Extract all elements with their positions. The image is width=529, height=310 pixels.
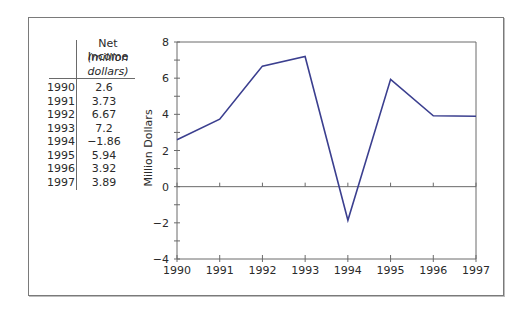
- net-income-line: [177, 57, 476, 221]
- chart-axes: 86420−2−41990199119921993199419951996199…: [153, 36, 490, 277]
- x-tick-label: 1990: [163, 264, 191, 277]
- y-tick-label: 8: [162, 36, 169, 49]
- x-tick-label: 1996: [419, 264, 447, 277]
- y-axis-label: Million Dollars: [142, 109, 155, 186]
- x-tick-label: 1994: [334, 264, 362, 277]
- y-tick-label: −2: [153, 217, 169, 230]
- x-tick-label: 1993: [291, 264, 319, 277]
- y-tick-label: 6: [162, 72, 169, 85]
- y-tick-label: 2: [162, 145, 169, 158]
- x-tick-label: 1991: [206, 264, 234, 277]
- x-tick-label: 1992: [248, 264, 276, 277]
- line-chart: 86420−2−41990199119921993199419951996199…: [0, 0, 529, 310]
- y-tick-label: 4: [162, 108, 169, 121]
- x-tick-label: 1997: [462, 264, 490, 277]
- x-tick-label: 1995: [377, 264, 405, 277]
- y-tick-label: 0: [162, 181, 169, 194]
